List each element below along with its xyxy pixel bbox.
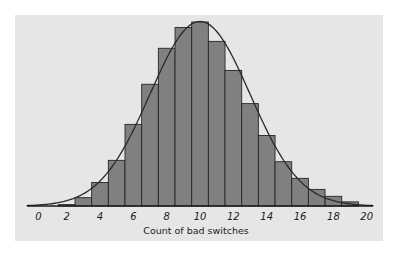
histogram-bar [142, 84, 159, 206]
histogram-bar [258, 135, 275, 206]
x-tick-label: 6 [130, 211, 136, 222]
x-tick-label: 14 [260, 211, 273, 222]
histogram-bar [208, 41, 225, 206]
x-tick-label: 16 [294, 211, 307, 222]
histogram-bar [125, 124, 142, 206]
histogram-bar [292, 178, 309, 206]
histogram-chart: 02468101214161820 Count of bad switches [0, 0, 400, 257]
x-tick-label: 12 [227, 211, 240, 222]
x-tick-label: 8 [164, 211, 170, 222]
x-axis-title: Count of bad switches [143, 225, 248, 236]
histogram-bar [225, 70, 242, 206]
x-tick-label: 10 [194, 211, 207, 222]
x-tick-label: 20 [360, 211, 373, 222]
histogram-bar [158, 48, 175, 206]
histogram-bar [175, 28, 192, 206]
x-tick-label: 2 [63, 211, 69, 222]
histogram-bar [75, 198, 92, 206]
histogram-bar [308, 189, 325, 206]
histogram-bar [108, 160, 125, 206]
histogram-bar [192, 22, 209, 206]
x-tick-label: 18 [327, 211, 340, 222]
histogram-bar [242, 104, 259, 206]
x-tick-label: 0 [35, 211, 41, 222]
x-tick-label: 4 [97, 211, 103, 222]
